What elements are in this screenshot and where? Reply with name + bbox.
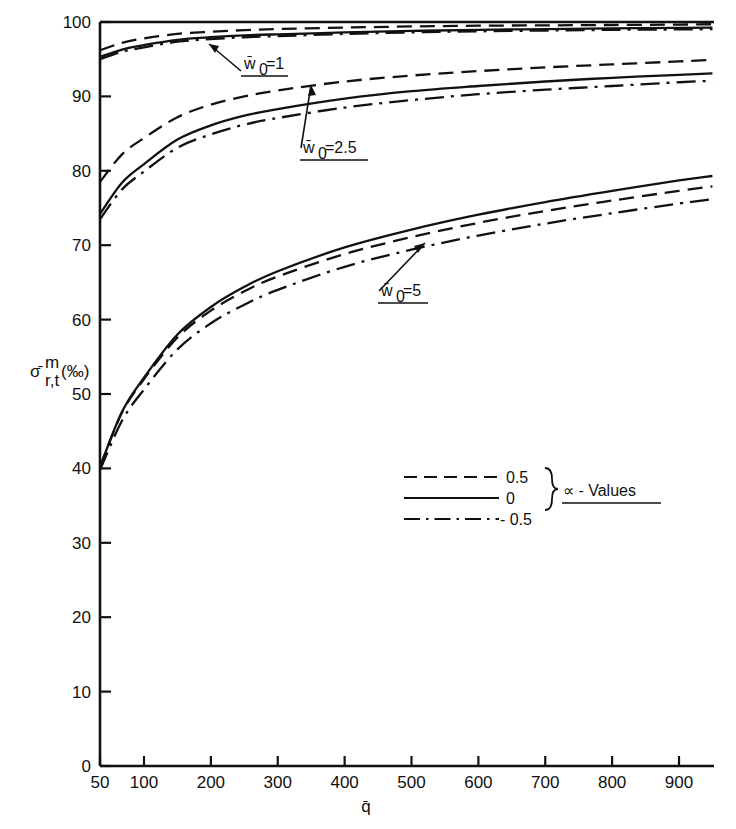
chart-background	[0, 0, 736, 829]
x-tick-label: 800	[598, 773, 626, 792]
y-tick-label: 90	[72, 87, 91, 106]
y-tick-label: 70	[72, 236, 91, 255]
annotation-w0-1-base: w̄	[243, 55, 256, 72]
x-tick-label: 500	[397, 773, 425, 792]
annotation-w0-5-base: w̄	[380, 282, 393, 299]
y-tick-label: 30	[72, 534, 91, 553]
legend-label-1: 0	[506, 490, 515, 507]
x-tick-label: 200	[197, 773, 225, 792]
legend-label-0: 0.5	[506, 469, 528, 486]
annotation-w0-1-value: =1	[266, 55, 284, 72]
y-axis-title-unit: (‰)	[61, 362, 89, 381]
y-tick-label: 100	[63, 13, 91, 32]
x-tick-label: 600	[464, 773, 492, 792]
x-tick-label: 900	[665, 773, 693, 792]
x-tick-label: 400	[330, 773, 358, 792]
y-tick-label: 80	[72, 162, 91, 181]
legend-title: ∝ - Values	[563, 482, 636, 499]
y-tick-label: 50	[72, 385, 91, 404]
chart-figure: 0102030405060708090100 50100200300400500…	[0, 0, 736, 829]
annotation-w0-5-value: =5	[403, 282, 421, 299]
annotation-w0-2p5-base: w̄	[302, 139, 315, 156]
y-axis-title-superscript: m	[45, 353, 59, 372]
y-axis-title-subscript: r,t	[45, 371, 59, 390]
y-tick-label: 20	[72, 608, 91, 627]
annotation-w0-2p5-value: =2.5	[325, 139, 357, 156]
y-tick-label: 60	[72, 311, 91, 330]
y-tick-label: 40	[72, 459, 91, 478]
y-tick-label: 10	[72, 683, 91, 702]
chart-canvas: 0102030405060708090100 50100200300400500…	[0, 0, 736, 829]
x-tick-label: 300	[264, 773, 292, 792]
x-axis-title-text: q̄	[361, 797, 370, 816]
legend-label-2: - 0.5	[500, 511, 532, 528]
x-axis-title: q̄	[361, 797, 370, 816]
x-tick-label: 100	[130, 773, 158, 792]
x-tick-label: 50	[91, 773, 110, 792]
x-tick-label: 700	[531, 773, 559, 792]
